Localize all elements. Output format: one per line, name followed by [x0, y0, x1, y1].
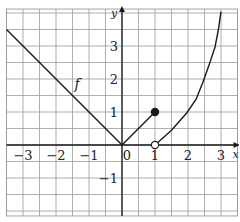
x-tick-label: 2	[184, 148, 192, 163]
y-tick-label: −1	[99, 171, 118, 186]
y-tick-label: 3	[110, 39, 118, 54]
x-tick-label: 1	[151, 148, 159, 163]
x-tick-label: −1	[79, 148, 98, 163]
function-graph: −3−2−10123−1123 x y f	[0, 0, 239, 222]
tick-labels: −3−2−10123−1123	[13, 39, 225, 186]
x-tick-label: −3	[13, 148, 32, 163]
y-axis-label: y	[110, 7, 118, 20]
x-axis-label: x	[233, 148, 240, 161]
y-tick-label: 1	[110, 105, 118, 120]
y-tick-label: 2	[110, 72, 118, 87]
closed-dot-icon	[151, 108, 158, 115]
x-tick-label: −2	[46, 148, 65, 163]
x-tick-label: 3	[217, 148, 225, 163]
function-curve	[7, 30, 123, 146]
open-dot-icon	[151, 141, 158, 148]
x-tick-label: 0	[123, 148, 131, 163]
function-label: f	[73, 76, 82, 92]
